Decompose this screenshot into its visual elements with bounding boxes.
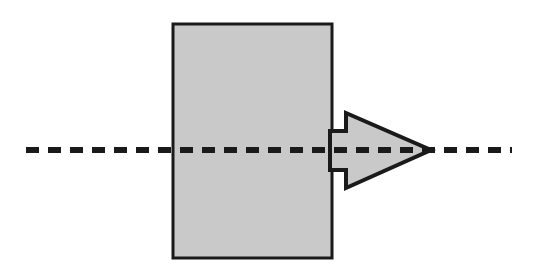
figure-svg: Rectangular block with rightward arrow o… <box>0 0 533 276</box>
block-rectangle <box>173 24 332 258</box>
diagram-canvas: Rectangular block with rightward arrow o… <box>0 0 533 276</box>
